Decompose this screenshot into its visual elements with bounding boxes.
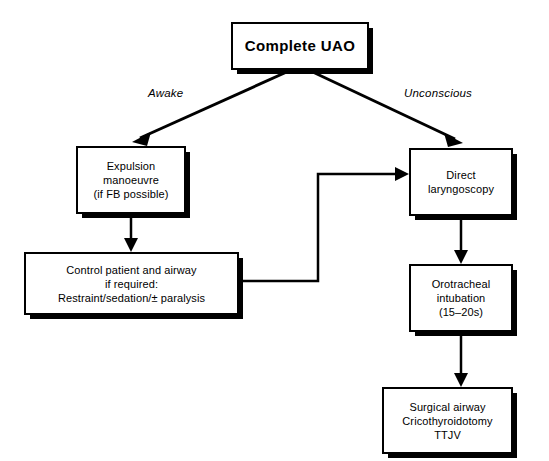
edge-label-unconscious: Unconscious [404,87,472,99]
node-expulsion-manoeuvre[interactable]: Expulsion manoeuvre (if FB possible) [76,146,186,214]
edge-control-to-laryngoscopy [239,167,409,281]
node-label: Surgical airway Cricothyroidotomy TTJV [398,400,496,442]
node-label: Control patient and airway if required: … [54,263,209,305]
edge-intubation-to-surgical [454,332,468,387]
node-orotracheal-intubation[interactable]: Orotracheal intubation (15–20s) [409,264,513,332]
edge-laryngoscopy-to-intubation [454,218,468,264]
edge-uao-to-laryngoscopy [300,66,463,147]
node-label: Direct laryngoscopy [424,168,498,196]
edge-expulsion-to-control [124,214,138,252]
node-surgical-airway[interactable]: Surgical airway Cricothyroidotomy TTJV [382,387,513,454]
edge-label-awake: Awake [148,87,183,99]
node-label: Orotracheal intubation (15–20s) [428,277,495,319]
node-direct-laryngoscopy[interactable]: Direct laryngoscopy [409,148,513,216]
flowchart-canvas: Complete UAO Expulsion manoeuvre (if FB … [0,0,549,461]
node-label: Complete UAO [241,37,360,55]
edge-uao-to-expulsion [132,66,300,146]
node-control-patient-airway[interactable]: Control patient and airway if required: … [24,252,239,315]
node-label: Expulsion manoeuvre (if FB possible) [90,159,173,201]
node-complete-uao[interactable]: Complete UAO [231,22,369,70]
